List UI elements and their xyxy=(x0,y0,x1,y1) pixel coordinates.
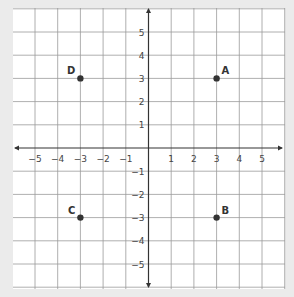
y-tick-label: −3 xyxy=(131,213,144,223)
x-tick-label: −3 xyxy=(74,154,87,164)
point-label-b: B xyxy=(222,205,230,216)
point-label-c: C xyxy=(68,205,75,216)
x-tick-label: 3 xyxy=(214,154,220,164)
x-tick-label: −2 xyxy=(96,154,109,164)
coordinate-plane: −5−4−3−2−11234554321−1−2−3−4−5 ABCD xyxy=(0,0,294,297)
point-label-a: A xyxy=(222,65,230,76)
y-tick-label: 3 xyxy=(139,74,145,84)
y-tick-label: 5 xyxy=(139,28,145,38)
y-tick-label: 1 xyxy=(139,120,145,130)
x-tick-label: 4 xyxy=(236,154,242,164)
x-tick-label: 5 xyxy=(259,154,265,164)
y-tick-label: −1 xyxy=(131,167,144,177)
x-tick-label: −5 xyxy=(28,154,41,164)
point-a xyxy=(213,75,219,81)
x-tick-label: 2 xyxy=(191,154,197,164)
point-label-d: D xyxy=(67,65,75,76)
y-tick-label: 2 xyxy=(139,97,145,107)
point-d xyxy=(77,75,83,81)
x-tick-label: 1 xyxy=(168,154,174,164)
y-tick-label: −5 xyxy=(131,260,144,270)
point-c xyxy=(77,214,83,220)
y-tick-label: 4 xyxy=(139,51,145,61)
x-tick-label: −1 xyxy=(119,154,132,164)
point-b xyxy=(213,214,219,220)
y-tick-label: −2 xyxy=(131,190,144,200)
x-tick-label: −4 xyxy=(51,154,65,164)
y-tick-label: −4 xyxy=(131,236,145,246)
